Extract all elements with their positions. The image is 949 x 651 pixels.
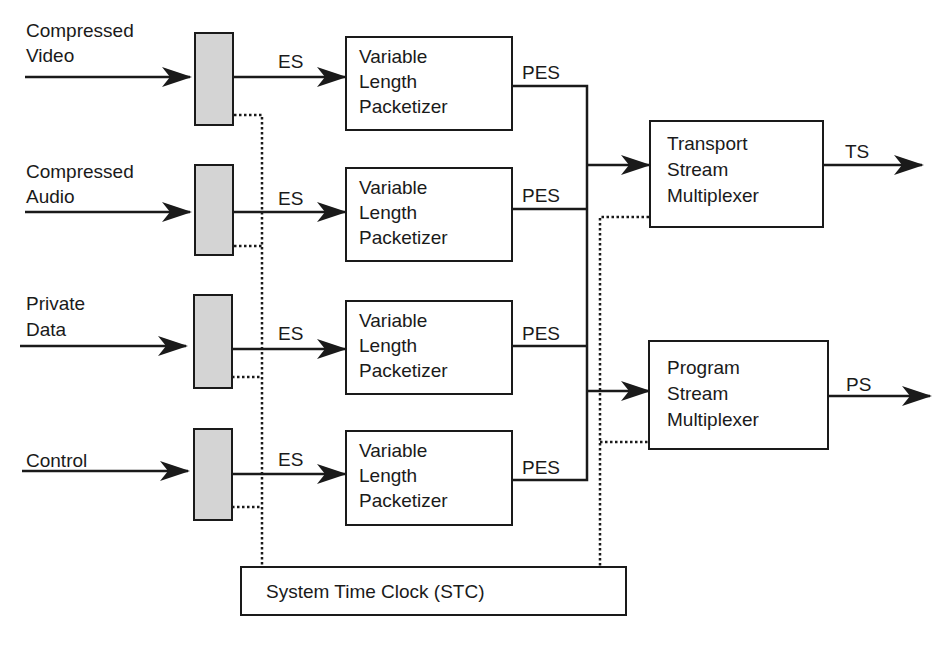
- ts-mux-line3: Multiplexer: [667, 184, 759, 208]
- input-label-video-2: Video: [26, 44, 74, 68]
- input-label-audio-1: Compressed: [26, 160, 134, 184]
- packetizer-2-line2: Length: [359, 201, 417, 225]
- program-stream-multiplexer: Program Stream Multiplexer: [648, 340, 829, 450]
- pes-label-2: PES: [522, 184, 560, 208]
- stc-label: System Time Clock (STC): [266, 580, 485, 604]
- ps-output-label: PS: [846, 373, 871, 397]
- packetizer-4-line3: Packetizer: [359, 489, 448, 513]
- buffer-audio: [194, 164, 234, 256]
- buffer-private: [193, 294, 233, 389]
- pes-line-1: [512, 86, 587, 480]
- es-label-4: ES: [278, 448, 303, 472]
- packetizer-4-line2: Length: [359, 464, 417, 488]
- packetizer-2: Variable Length Packetizer: [345, 167, 513, 262]
- input-label-control: Control: [26, 449, 87, 473]
- es-label-1: ES: [278, 50, 303, 74]
- input-label-private-1: Private: [26, 292, 85, 316]
- pes-label-3: PES: [522, 322, 560, 346]
- buffer-control: [193, 428, 233, 521]
- packetizer-2-line3: Packetizer: [359, 226, 448, 250]
- packetizer-1: Variable Length Packetizer: [345, 36, 513, 131]
- packetizer-3: Variable Length Packetizer: [345, 300, 513, 395]
- pes-label-4: PES: [522, 456, 560, 480]
- ts-output-label: TS: [845, 140, 869, 164]
- system-time-clock: System Time Clock (STC): [240, 566, 627, 616]
- pes-label-1: PES: [522, 61, 560, 85]
- input-label-video-1: Compressed: [26, 19, 134, 43]
- ps-mux-line3: Multiplexer: [667, 408, 759, 432]
- input-label-audio-2: Audio: [26, 185, 75, 209]
- packetizer-4-line1: Variable: [359, 439, 427, 463]
- ts-mux-line1: Transport: [667, 132, 748, 156]
- ps-mux-line1: Program: [667, 356, 740, 380]
- es-label-2: ES: [278, 187, 303, 211]
- packetizer-1-line2: Length: [359, 70, 417, 94]
- packetizer-4: Variable Length Packetizer: [345, 430, 513, 526]
- packetizer-1-line1: Variable: [359, 45, 427, 69]
- packetizer-3-line2: Length: [359, 334, 417, 358]
- ps-mux-line2: Stream: [667, 382, 728, 406]
- packetizer-3-line3: Packetizer: [359, 359, 448, 383]
- es-label-3: ES: [278, 322, 303, 346]
- transport-stream-multiplexer: Transport Stream Multiplexer: [649, 120, 824, 228]
- input-label-private-2: Data: [26, 318, 66, 342]
- ts-mux-line2: Stream: [667, 158, 728, 182]
- packetizer-1-line3: Packetizer: [359, 95, 448, 119]
- packetizer-2-line1: Variable: [359, 176, 427, 200]
- buffer-video: [194, 32, 234, 126]
- stc-timing-line-left: [234, 115, 262, 566]
- packetizer-3-line1: Variable: [359, 309, 427, 333]
